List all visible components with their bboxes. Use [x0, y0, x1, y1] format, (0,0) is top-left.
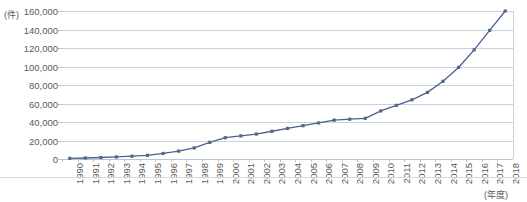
y-axis-tick-label: 100,000	[0, 61, 58, 72]
data-point-marker	[193, 146, 196, 149]
data-point-marker	[488, 29, 491, 32]
x-axis-tick-label: 2005	[308, 163, 319, 184]
y-axis: 160,000140,000120,000100,00080,00060,000…	[0, 0, 58, 202]
x-axis-unit-label: (年度)	[484, 188, 508, 201]
x-axis-tick-mark	[389, 160, 390, 162]
data-point-marker	[115, 155, 118, 158]
x-axis-tick-mark	[218, 160, 219, 162]
line-chart: (件) 160,000140,000120,000100,00080,00060…	[0, 0, 527, 202]
x-axis-tick-label: 1991	[90, 163, 101, 184]
x-axis-tick-mark	[342, 160, 343, 162]
x-axis-tick-mark	[171, 160, 172, 162]
data-point-marker	[364, 117, 367, 120]
data-point-marker	[410, 98, 413, 101]
data-point-marker	[348, 118, 351, 121]
plot-right-border	[513, 11, 514, 159]
series-polyline	[70, 11, 505, 158]
data-point-marker	[441, 80, 444, 83]
x-axis-tick-mark	[420, 160, 421, 162]
x-axis-tick-mark	[295, 160, 296, 162]
x-axis-tick-label: 2000	[230, 163, 241, 184]
x-axis-tick-label: 2012	[416, 163, 427, 184]
x-axis-tick-label: 1999	[214, 163, 225, 184]
x-axis-tick-mark	[404, 160, 405, 162]
x-axis-tick-mark	[373, 160, 374, 162]
y-axis-tick-label: 40,000	[0, 117, 58, 128]
x-axis-tick-mark	[78, 160, 79, 162]
data-point-marker	[255, 132, 258, 135]
x-axis-tick-label: 2010	[385, 163, 396, 184]
x-axis-tick-mark	[280, 160, 281, 162]
x-axis-tick-mark	[497, 160, 498, 162]
x-axis-tick-label: 2018	[510, 163, 521, 184]
x-axis-tick-label: 1998	[199, 163, 210, 184]
data-point-marker	[161, 152, 164, 155]
x-axis-tick-mark	[357, 160, 358, 162]
x-axis-tick-label: 2003	[276, 163, 287, 184]
plot-area	[62, 11, 513, 159]
x-axis-tick-mark	[155, 160, 156, 162]
x-axis-tick-mark	[62, 160, 63, 162]
x-axis-tick-mark	[482, 160, 483, 162]
x-axis-tick-label: 2009	[370, 163, 381, 184]
x-axis-tick-label: 1996	[168, 163, 179, 184]
x-axis-tick-mark	[326, 160, 327, 162]
x-axis-tick-label: 2002	[261, 163, 272, 184]
x-axis-tick-label: 2013	[432, 163, 443, 184]
y-axis-tick-label: 140,000	[0, 24, 58, 35]
x-axis-tick-label: 2008	[354, 163, 365, 184]
data-point-marker	[99, 156, 102, 159]
y-axis-tick-label: 20,000	[0, 135, 58, 146]
x-axis-tick-label: 2015	[463, 163, 474, 184]
x-axis-tick-label: 2007	[339, 163, 350, 184]
data-point-marker	[130, 155, 133, 158]
bottom-rule	[0, 177, 527, 178]
x-axis-tick-mark	[93, 160, 94, 162]
x-axis-tick-label: 2006	[323, 163, 334, 184]
y-axis-tick-label: 120,000	[0, 43, 58, 54]
x-axis-tick-label: 2004	[292, 163, 303, 184]
data-point-marker	[504, 9, 507, 12]
x-axis-tick-mark	[233, 160, 234, 162]
x-axis-tick-mark	[311, 160, 312, 162]
x-axis-tick-mark	[140, 160, 141, 162]
data-point-marker	[426, 91, 429, 94]
x-axis-tick-mark	[249, 160, 250, 162]
data-point-marker	[286, 127, 289, 130]
series-line	[62, 11, 513, 159]
data-point-marker	[473, 48, 476, 51]
y-axis-tick-label: 60,000	[0, 98, 58, 109]
x-axis-tick-mark	[202, 160, 203, 162]
data-point-marker	[379, 109, 382, 112]
data-point-marker	[301, 124, 304, 127]
x-axis-tick-label: 1994	[136, 163, 147, 184]
x-axis-tick-mark	[264, 160, 265, 162]
data-point-marker	[146, 154, 149, 157]
x-axis-tick-label: 1993	[121, 163, 132, 184]
x-axis-tick-mark	[109, 160, 110, 162]
x-axis: (年度) 19901991199219931994199519961997199…	[62, 160, 513, 202]
x-axis-tick-label: 2016	[479, 163, 490, 184]
data-point-marker	[333, 119, 336, 122]
y-axis-tick-label: 160,000	[0, 6, 58, 17]
data-point-marker	[208, 141, 211, 144]
x-axis-tick-label: 1997	[183, 163, 194, 184]
data-point-marker	[177, 150, 180, 153]
x-axis-tick-mark	[435, 160, 436, 162]
y-axis-tick-label: 0	[0, 154, 58, 165]
data-point-marker	[317, 121, 320, 124]
x-axis-tick-label: 2001	[245, 163, 256, 184]
x-axis-tick-label: 2014	[448, 163, 459, 184]
x-axis-tick-mark	[466, 160, 467, 162]
data-point-marker	[457, 66, 460, 69]
x-axis-tick-label: 1995	[152, 163, 163, 184]
x-axis-tick-label: 2017	[494, 163, 505, 184]
x-axis-tick-mark	[451, 160, 452, 162]
x-axis-tick-mark	[124, 160, 125, 162]
data-point-marker	[395, 104, 398, 107]
y-axis-tick-label: 80,000	[0, 80, 58, 91]
data-point-marker	[224, 136, 227, 139]
x-axis-tick-mark	[186, 160, 187, 162]
x-axis-tick-label: 1992	[105, 163, 116, 184]
data-point-marker	[239, 134, 242, 137]
